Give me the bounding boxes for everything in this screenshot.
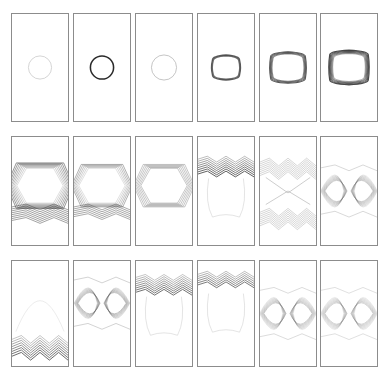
simulation-panel-r2-c2 xyxy=(73,136,131,246)
simulation-panel-r3-c4 xyxy=(197,260,255,367)
wave-pattern-graphic xyxy=(136,261,192,366)
simulation-panel-r1-c4 xyxy=(197,13,255,122)
simulation-panel-r3-c6 xyxy=(320,260,378,367)
wave-pattern-graphic xyxy=(74,137,130,245)
wave-pattern-graphic xyxy=(12,137,68,245)
simulation-panel-r1-c5 xyxy=(259,13,317,122)
wave-pattern-graphic xyxy=(12,14,68,121)
wave-pattern-graphic xyxy=(198,14,254,121)
simulation-panel-r3-c1 xyxy=(11,260,69,367)
simulation-panel-r2-c6 xyxy=(320,136,378,246)
wave-pattern-graphic xyxy=(198,261,254,366)
wave-pattern-graphic xyxy=(12,261,68,366)
simulation-panel-r1-c3 xyxy=(135,13,193,122)
simulation-panel-r1-c1 xyxy=(11,13,69,122)
wave-pattern-graphic xyxy=(136,14,192,121)
simulation-panel-r3-c2 xyxy=(73,260,131,367)
simulation-panel-r3-c3 xyxy=(135,260,193,367)
wave-pattern-graphic xyxy=(136,137,192,245)
simulation-panel-r2-c5 xyxy=(259,136,317,246)
wave-pattern-graphic xyxy=(321,137,377,245)
simulation-panel-r1-c6 xyxy=(320,13,378,122)
wave-pattern-graphic xyxy=(260,261,316,366)
simulation-panel-r1-c2 xyxy=(73,13,131,122)
wave-pattern-graphic xyxy=(321,14,377,121)
wave-pattern-graphic xyxy=(198,137,254,245)
wave-pattern-graphic xyxy=(74,14,130,121)
wave-pattern-graphic xyxy=(321,261,377,366)
wave-pattern-graphic xyxy=(74,261,130,366)
wave-pattern-graphic xyxy=(260,14,316,121)
simulation-panel-r2-c3 xyxy=(135,136,193,246)
simulation-panel-r2-c1 xyxy=(11,136,69,246)
simulation-panel-r3-c5 xyxy=(259,260,317,367)
wave-pattern-graphic xyxy=(260,137,316,245)
simulation-panel-r2-c4 xyxy=(197,136,255,246)
